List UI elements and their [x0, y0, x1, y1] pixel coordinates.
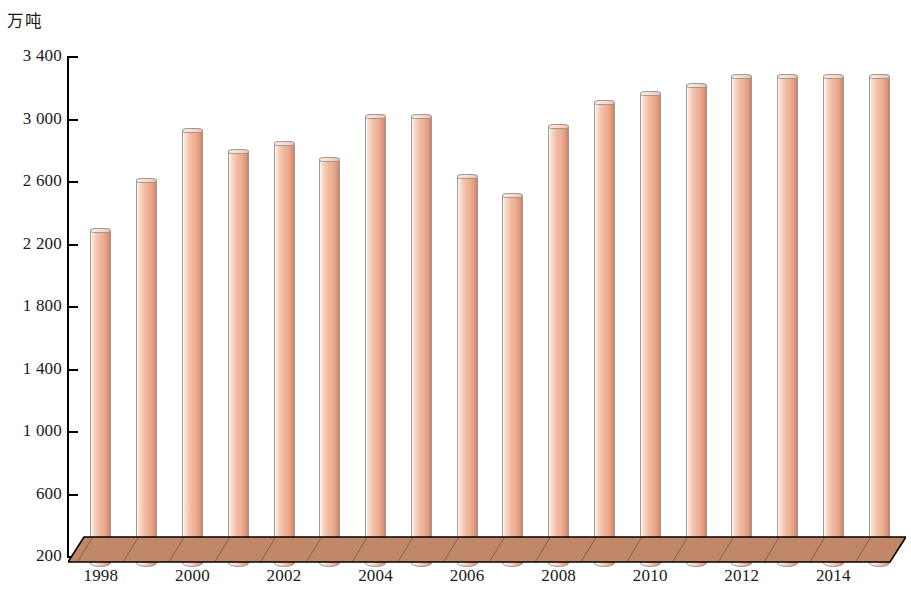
bar — [686, 85, 707, 563]
bar-top-cap — [640, 91, 661, 96]
bar-body — [228, 151, 249, 563]
bar-body — [686, 85, 707, 563]
bar-top-cap — [548, 124, 569, 129]
bar-body — [182, 130, 203, 563]
x-axis-tick-label: 2004 — [346, 566, 406, 586]
bar — [365, 116, 386, 563]
bar-chart: 万吨 3 4003 0002 6002 2001 8001 4001 00060… — [0, 0, 911, 589]
bar-body — [274, 143, 295, 563]
bar — [777, 76, 798, 563]
bar — [548, 126, 569, 563]
platform-surface — [68, 537, 906, 562]
x-axis-tick-label: 2002 — [254, 566, 314, 586]
bar-top-cap — [411, 114, 432, 119]
bar — [182, 130, 203, 563]
bar-top-cap — [823, 74, 844, 79]
x-axis-tick-label: 2000 — [162, 566, 222, 586]
bar — [457, 176, 478, 563]
bar-body — [136, 180, 157, 563]
bar-top-cap — [731, 74, 752, 79]
bar-top-cap — [502, 193, 523, 198]
bar-body — [411, 116, 432, 563]
bar-top-cap — [686, 83, 707, 88]
bars-layer — [0, 0, 911, 589]
bar-top-cap — [182, 128, 203, 133]
x-axis-tick-label: 2014 — [803, 566, 863, 586]
x-axis-tick-label: 2008 — [529, 566, 589, 586]
bar — [90, 230, 111, 563]
chart-base-platform — [68, 535, 906, 565]
bar-body — [869, 76, 890, 563]
bar-top-cap — [90, 228, 111, 233]
bar-body — [731, 76, 752, 563]
bar — [731, 76, 752, 563]
bar-top-cap — [228, 149, 249, 154]
bar-top-cap — [777, 74, 798, 79]
bar-body — [594, 102, 615, 563]
bar-top-cap — [457, 174, 478, 179]
bar-body — [90, 230, 111, 563]
bar — [319, 159, 340, 563]
bar-top-cap — [274, 141, 295, 146]
x-axis-tick-label: 1998 — [71, 566, 131, 586]
bar — [411, 116, 432, 563]
bar-body — [502, 195, 523, 564]
x-axis-tick-label: 2010 — [620, 566, 680, 586]
bar-top-cap — [365, 114, 386, 119]
x-axis-tick-label: 2006 — [437, 566, 497, 586]
bar — [640, 93, 661, 563]
bar-top-cap — [319, 157, 340, 162]
bar-top-cap — [869, 74, 890, 79]
bar — [274, 143, 295, 563]
bar-body — [548, 126, 569, 563]
x-axis-tick-label: 2012 — [712, 566, 772, 586]
bar — [502, 195, 523, 564]
bar — [869, 76, 890, 563]
bar — [594, 102, 615, 563]
bar-body — [777, 76, 798, 563]
bar-body — [457, 176, 478, 563]
bar — [136, 180, 157, 563]
bar — [228, 151, 249, 563]
bar-top-cap — [594, 100, 615, 105]
bar-top-cap — [136, 178, 157, 183]
bar-body — [823, 76, 844, 563]
bar-body — [319, 159, 340, 563]
bar-body — [640, 93, 661, 563]
bar-body — [365, 116, 386, 563]
bar — [823, 76, 844, 563]
